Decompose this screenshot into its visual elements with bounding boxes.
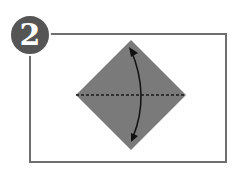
step-number-badge: 2 <box>9 14 51 56</box>
step-number: 2 <box>20 20 41 50</box>
